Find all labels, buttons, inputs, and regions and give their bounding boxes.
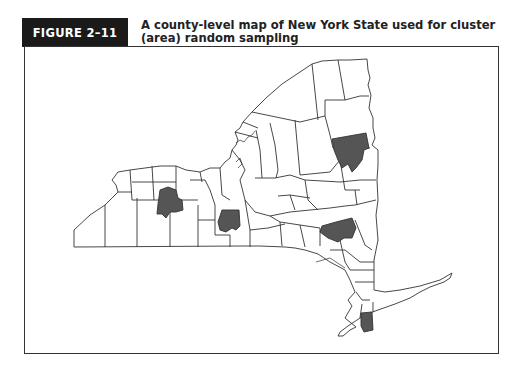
new-york-county-map bbox=[0, 0, 522, 374]
state-outline bbox=[74, 59, 452, 336]
sampled-county-long-island bbox=[361, 312, 373, 332]
sampled-county-south-central bbox=[218, 210, 240, 232]
